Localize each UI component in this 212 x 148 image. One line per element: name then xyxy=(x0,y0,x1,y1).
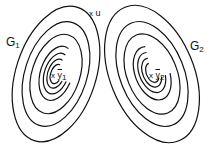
center-marker: x xyxy=(149,71,153,80)
g2-label: G2 xyxy=(190,40,204,54)
y1-center-label: x y1 xyxy=(51,71,66,82)
point-marker: x xyxy=(89,9,93,18)
center-marker: x xyxy=(51,71,55,80)
y2-center-label: x y2 xyxy=(149,71,164,82)
g1-label: G1 xyxy=(6,36,20,50)
u-point-label: x u xyxy=(89,9,101,18)
contour-diagram xyxy=(0,0,212,148)
